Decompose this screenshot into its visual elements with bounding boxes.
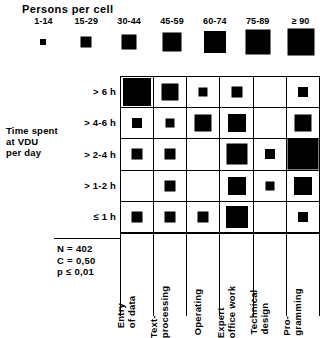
matrix-cell[interactable]: [154, 139, 187, 169]
x-axis-tick-label: Technicaldesign: [248, 290, 270, 335]
matrix-row: [121, 139, 320, 170]
legend-item-label: 60-74: [193, 16, 236, 26]
matrix-cell-symbol: [132, 118, 142, 128]
x-axis-tick-label-line: office work: [226, 286, 237, 338]
legend-swatch-cell: [236, 28, 279, 56]
matrix-cell[interactable]: [187, 108, 220, 138]
legend-swatch: [204, 31, 226, 53]
y-axis-title-line: at VDU: [6, 136, 58, 147]
legend-swatch: [287, 29, 314, 56]
matrix-cell-symbol: [265, 181, 274, 190]
legend-item: 45-59: [151, 16, 194, 56]
stat-p: p ≤ 0,01: [57, 266, 96, 278]
matrix-cell-symbol: [228, 177, 246, 195]
matrix-cell[interactable]: [287, 77, 320, 107]
legend-swatch-cell: [279, 28, 322, 56]
matrix-cell-symbol: [231, 87, 242, 98]
matrix-cell-symbol: [165, 211, 176, 222]
legend-swatch-cell: [151, 28, 194, 56]
legend-swatch-cell: [193, 28, 236, 56]
matrix-cell[interactable]: [187, 171, 220, 201]
matrix-cell-symbol: [294, 115, 311, 132]
matrix-cell-symbol: [195, 115, 212, 132]
legend-swatch: [122, 35, 137, 50]
matrix-cell[interactable]: [254, 77, 287, 107]
matrix-cell[interactable]: [121, 108, 154, 138]
x-axis-tick-label-line: design: [259, 290, 270, 335]
matrix-cell[interactable]: [287, 139, 320, 169]
legend-item: ≥ 90: [279, 16, 322, 56]
legend-item-label: 15-29: [65, 16, 108, 26]
matrix-cell[interactable]: [254, 139, 287, 169]
matrix-cell[interactable]: [187, 202, 220, 232]
matrix-cell-symbol: [298, 212, 308, 222]
legend-item: 30-44: [108, 16, 151, 56]
x-axis-tick-label: Expertoffice work: [215, 286, 237, 338]
matrix-cell[interactable]: [187, 139, 220, 169]
y-axis-tick-label: ≤ 1 h: [48, 211, 116, 222]
matrix-cell-symbol: [199, 88, 208, 97]
legend: 1-1415-2930-4445-5960-7475-89≥ 90: [22, 16, 322, 58]
x-axis-tick-label-line: Entry: [115, 296, 126, 329]
stat-n: N = 402: [57, 243, 96, 255]
x-axis-tick-label-line: Operating: [192, 289, 203, 336]
legend-item-label: 45-59: [151, 16, 194, 26]
matrix-cell-symbol: [287, 139, 318, 170]
matrix-cell-symbol: [226, 206, 248, 228]
legend-swatch: [245, 30, 270, 55]
y-axis-tick-label: > 6 h: [48, 86, 116, 97]
matrix-cell[interactable]: [121, 171, 154, 201]
stat-c: C = 0,50: [57, 255, 96, 267]
legend-item: 15-29: [65, 16, 108, 56]
matrix-cell[interactable]: [220, 77, 253, 107]
y-axis-tick-label: > 4-6 h: [48, 117, 116, 128]
matrix-cell[interactable]: [154, 171, 187, 201]
matrix-row: [121, 108, 320, 139]
matrix-row: [121, 77, 320, 108]
x-axis-tick-label-line: Pro-: [281, 288, 292, 336]
x-axis-tick-label-line: Text-: [148, 286, 159, 338]
matrix-cell-symbol: [162, 84, 179, 101]
matrix-cell[interactable]: [187, 77, 220, 107]
x-axis-tick-label-line: of data: [126, 296, 137, 329]
legend-title: Persons per cell: [22, 3, 113, 15]
x-axis-tick-labels: Entryof dataText-processingOperatingExpe…: [120, 233, 320, 316]
matrix-cell[interactable]: [220, 171, 253, 201]
x-axis-tick-label-line: Technical: [248, 290, 259, 335]
x-axis-tick-label-line: processing: [159, 286, 170, 338]
legend-item: 60-74: [193, 16, 236, 56]
legend-swatch: [81, 37, 92, 48]
matrix-cell-symbol: [298, 87, 308, 97]
matrix-cell[interactable]: [287, 202, 320, 232]
matrix-cell[interactable]: [254, 202, 287, 232]
x-axis-tick-label: Text-processing: [148, 286, 170, 338]
legend-item: 75-89: [236, 16, 279, 56]
matrix-cell[interactable]: [154, 202, 187, 232]
matrix-grid: [120, 76, 320, 233]
matrix-cell[interactable]: [254, 171, 287, 201]
matrix-cell[interactable]: [220, 202, 253, 232]
legend-swatch: [162, 33, 181, 52]
legend-swatch: [40, 39, 46, 45]
legend-swatch-cell: [22, 28, 65, 56]
matrix-cell[interactable]: [287, 108, 320, 138]
matrix-cell[interactable]: [220, 108, 253, 138]
matrix-cell-symbol: [226, 144, 247, 165]
matrix-cell[interactable]: [121, 139, 154, 169]
stats-divider: [54, 238, 120, 239]
x-axis-tick-label-line: Expert: [215, 286, 226, 338]
matrix-cell[interactable]: [121, 202, 154, 232]
legend-item: 1-14: [22, 16, 65, 56]
matrix-cell[interactable]: [254, 108, 287, 138]
matrix-cell-symbol: [132, 211, 143, 222]
y-axis-tick-label: > 2-4 h: [48, 149, 116, 160]
legend-item-label: 75-89: [236, 16, 279, 26]
matrix-cell[interactable]: [121, 77, 154, 107]
matrix-cell-symbol: [123, 78, 151, 106]
matrix-cell-symbol: [165, 149, 176, 160]
matrix-cell[interactable]: [287, 171, 320, 201]
matrix-cell[interactable]: [220, 139, 253, 169]
matrix-cell[interactable]: [154, 108, 187, 138]
matrix-cell[interactable]: [154, 77, 187, 107]
